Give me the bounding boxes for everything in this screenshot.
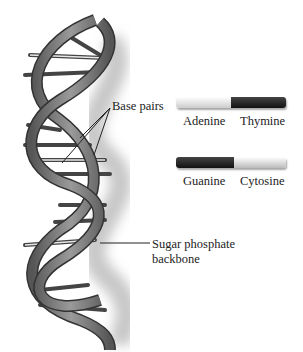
label-cytosine: Cytosine [240,174,284,188]
guanine-cytosine-bar [176,157,286,168]
label-base-pairs: Base pairs [112,99,164,113]
dna-helix-illustration [0,0,180,352]
guanine-segment [176,157,234,168]
label-thymine: Thymine [240,114,285,128]
adenine-thymine-bar [176,97,286,108]
label-adenine: Adenine [183,114,225,128]
adenine-segment [176,97,231,108]
cytosine-segment [234,157,286,168]
label-guanine: Guanine [183,174,225,188]
label-backbone: backbone [152,252,200,266]
thymine-segment [231,97,286,108]
label-sugar-phosphate: Sugar phosphate [152,237,235,251]
